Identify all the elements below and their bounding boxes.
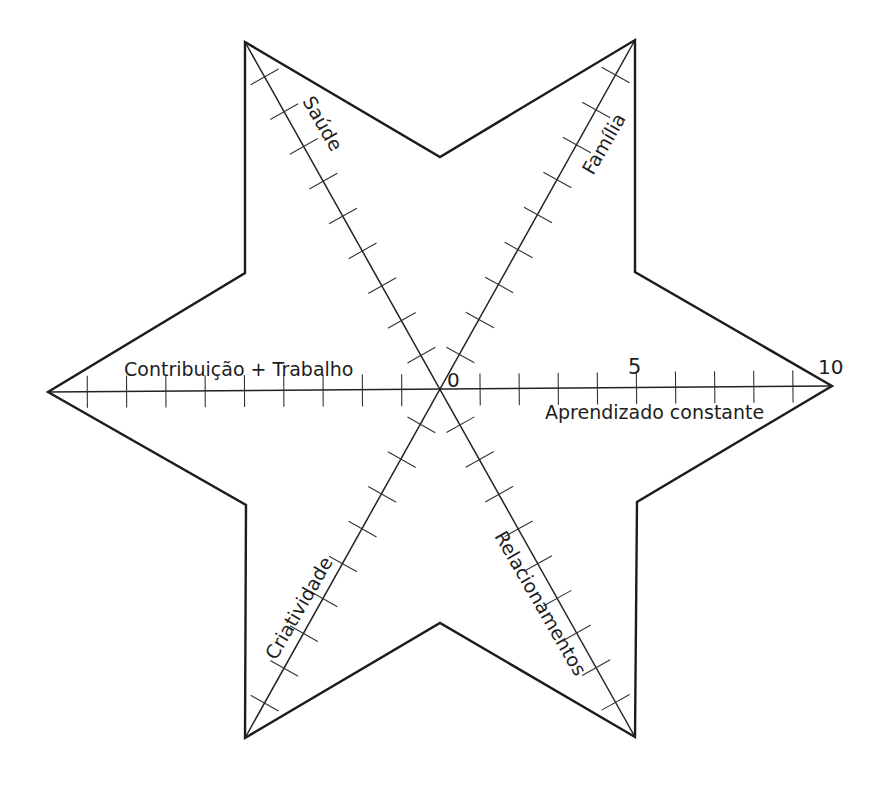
star-diagram: 0 5 10 Contribuição + Trabalho Aprendiza…	[0, 0, 882, 788]
tick-mark	[446, 347, 474, 363]
tick-mark	[270, 661, 298, 677]
tick-mark	[388, 452, 416, 468]
tick-mark	[251, 69, 279, 85]
axis-label-aprendizado-constante: Aprendizado constante	[545, 401, 764, 423]
tick-mark	[524, 207, 552, 223]
tick-mark	[290, 139, 318, 155]
scale-label-ten: 10	[818, 355, 843, 379]
axis-label-contribuicao-trabalho: Contribuição + Trabalho	[124, 358, 353, 380]
tick-mark	[602, 67, 630, 83]
scale-label-five: 5	[628, 355, 641, 379]
tick-mark	[270, 104, 298, 120]
tick-mark	[309, 173, 337, 189]
tick-mark	[349, 521, 377, 537]
tick-mark	[407, 417, 435, 433]
tick-mark	[485, 277, 513, 293]
tick-mark	[329, 208, 357, 224]
scale-label-zero: 0	[447, 368, 460, 392]
tick-mark	[349, 243, 377, 259]
tick-mark	[446, 417, 474, 433]
tick-mark	[368, 487, 396, 503]
tick-mark	[543, 172, 571, 188]
tick-mark	[505, 242, 533, 258]
tick-mark	[485, 486, 513, 502]
axis-label-relacionamentos: Relacionamentos	[491, 527, 592, 679]
tick-mark	[602, 694, 630, 710]
tick-mark	[582, 102, 610, 118]
tick-mark	[407, 347, 435, 363]
tick-mark	[466, 452, 494, 468]
tick-mark	[368, 278, 396, 294]
tick-mark	[466, 312, 494, 328]
tick-mark	[388, 313, 416, 329]
axis-label-familia: Família	[577, 109, 629, 178]
tick-mark	[251, 695, 279, 711]
axis-label-criatividade: Criatividade	[260, 553, 336, 663]
